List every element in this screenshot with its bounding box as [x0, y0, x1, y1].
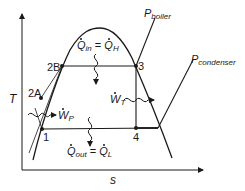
heat-in-symbol: Q — [77, 40, 86, 51]
heat-high-symbol: Q — [104, 40, 113, 51]
condenser-isobar — [158, 60, 193, 128]
state-label-3: 3 — [138, 61, 144, 72]
turbine-work-label: WT — [110, 94, 125, 107]
heat-in-wavy-arrow — [94, 54, 97, 84]
x-axis-label: s — [110, 174, 116, 186]
rankine-ts-diagram: T s 2B 2A 1 3 4 Pboiler Pcondenser Qin =… — [0, 0, 245, 191]
heat-in-equals: = — [95, 39, 101, 51]
heat-in-label: Qin = QH — [77, 40, 119, 53]
turbine-work-symbol: W — [110, 94, 120, 105]
state-point-4 — [134, 126, 138, 130]
turbine-work-subscript: T — [120, 98, 125, 107]
pump-process-line — [35, 108, 42, 129]
heat-out-equals: = — [90, 145, 96, 157]
heat-out-subscript: out — [76, 150, 87, 159]
axes — [22, 14, 203, 170]
pump-work-symbol: W — [58, 110, 68, 121]
heat-out-symbol: Q — [67, 146, 76, 157]
state-label-4: 4 — [133, 132, 139, 143]
heat-out-wavy-arrow — [88, 117, 91, 146]
condenser-pressure-label: Pcondenser — [191, 54, 236, 67]
heat-high-subscript: H — [113, 44, 119, 53]
pump-work-subscript: P — [68, 114, 73, 123]
heat-low-subscript: L — [108, 150, 112, 159]
heat-low-symbol: Q — [99, 146, 108, 157]
state-point-2B — [60, 64, 64, 68]
state-label-1: 1 — [43, 132, 49, 143]
state-label-2B: 2B — [47, 62, 60, 73]
boiler-pressure-label: Pboiler — [144, 8, 171, 21]
boiler-isobar — [136, 18, 155, 66]
pump-work-wavy-arrow — [28, 113, 56, 116]
boiler-pressure-subscript: boiler — [151, 12, 171, 21]
y-axis-label: T — [9, 93, 16, 105]
heat-in-subscript: in — [86, 44, 92, 53]
pump-work-label: WP — [58, 110, 74, 123]
state-label-2A: 2A — [28, 88, 41, 99]
condenser-pressure-subscript: condenser — [198, 58, 235, 67]
heat-out-label: Qout = QL — [67, 146, 112, 159]
